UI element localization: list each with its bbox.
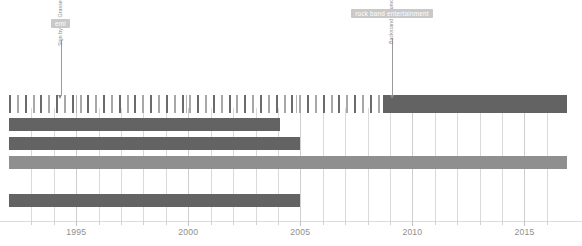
tick-mark (127, 95, 129, 113)
x-axis-tick (76, 221, 77, 226)
tick-mark (80, 95, 82, 113)
badge-emi[interactable]: emi (51, 19, 70, 28)
tick-mark (95, 95, 97, 113)
x-axis-tick (121, 221, 122, 225)
tick-mark (205, 95, 207, 113)
tick-mark (299, 95, 301, 113)
tick-mark (284, 95, 286, 113)
tick-mark (197, 95, 199, 113)
x-axis-tick (278, 221, 279, 225)
plot-area: Sign by Vic Grassert and Lazuri emi Back… (0, 0, 582, 246)
x-axis-tick (480, 221, 481, 225)
x-axis-tick (166, 221, 167, 225)
tick-mark (64, 95, 66, 113)
x-axis-tick (54, 221, 55, 225)
tick-mark (189, 95, 191, 113)
x-axis-line (0, 221, 582, 222)
tick-mark (40, 95, 42, 113)
tick-mark (260, 95, 262, 113)
tick-mark (213, 95, 215, 113)
tick-mark (111, 95, 113, 113)
x-axis-tick (390, 221, 391, 225)
x-axis-tick (188, 221, 189, 226)
tick-mark (331, 95, 333, 113)
tick-mark (244, 95, 246, 113)
tick-mark (346, 95, 348, 113)
duration-bar (9, 156, 567, 169)
tick-mark (166, 95, 168, 113)
x-axis-tick (435, 221, 436, 225)
tick-mark (276, 95, 278, 113)
tick-mark (236, 95, 238, 113)
x-axis-tick (99, 221, 100, 225)
x-axis-label: 2010 (402, 227, 422, 237)
tick-mark (252, 95, 254, 113)
tick-mark (229, 95, 231, 113)
x-axis-tick (457, 221, 458, 225)
marker-stem (61, 40, 62, 95)
tick-mark (48, 95, 50, 113)
x-axis-tick (524, 221, 525, 226)
x-axis-tick (368, 221, 369, 225)
x-axis-tick (143, 221, 144, 225)
tick-mark (221, 95, 223, 113)
tick-mark (72, 95, 74, 113)
tick-mark (323, 95, 325, 113)
x-axis-tick (233, 221, 234, 225)
badge-rock-band-entertainment[interactable]: rock band entertainment (351, 9, 433, 18)
tick-mark (150, 95, 152, 113)
tick-mark (354, 95, 356, 113)
tick-mark (182, 95, 184, 113)
x-axis-tick (300, 221, 301, 226)
tick-mark (17, 95, 19, 113)
tick-rail-separator (186, 95, 187, 113)
duration-bar (9, 194, 300, 207)
marker-stem (392, 38, 393, 95)
tick-mark (291, 95, 293, 113)
duration-bar (9, 137, 300, 150)
tick-mark (119, 95, 121, 113)
tick-mark (307, 95, 309, 113)
marker-arrow-icon (58, 95, 62, 99)
x-axis-tick (345, 221, 346, 225)
tick-mark (158, 95, 160, 113)
tick-mark (362, 95, 364, 113)
tick-mark (378, 95, 380, 113)
tick-mark (87, 95, 89, 113)
x-axis-tick (547, 221, 548, 225)
x-axis-tick (412, 221, 413, 226)
x-axis-tick (211, 221, 212, 225)
tick-mark (33, 95, 35, 113)
x-axis-tick (31, 221, 32, 225)
timeline-chart: Sign by Vic Grassert and Lazuri emi Back… (0, 0, 582, 246)
marker-sublabel: Backstand & Tumor (388, 0, 394, 44)
x-axis-label: 2005 (290, 227, 310, 237)
duration-bar (383, 95, 567, 113)
duration-bar (9, 118, 280, 131)
x-axis-label: 2000 (178, 227, 198, 237)
tick-rail-separator (76, 95, 77, 113)
x-axis-tick (502, 221, 503, 225)
tick-mark (268, 95, 270, 113)
x-axis-label: 1995 (66, 227, 86, 237)
tick-mark (338, 95, 340, 113)
tick-mark (103, 95, 105, 113)
marker-arrow-icon (390, 95, 394, 99)
tick-rail-separator (296, 95, 297, 113)
tick-mark (370, 95, 372, 113)
tick-mark (174, 95, 176, 113)
x-axis-tick (323, 221, 324, 225)
tick-mark (25, 95, 27, 113)
tick-mark (142, 95, 144, 113)
x-axis-label: 2015 (514, 227, 534, 237)
tick-mark (315, 95, 317, 113)
tick-mark (134, 95, 136, 113)
tick-mark (9, 95, 11, 113)
x-axis-tick (256, 221, 257, 225)
